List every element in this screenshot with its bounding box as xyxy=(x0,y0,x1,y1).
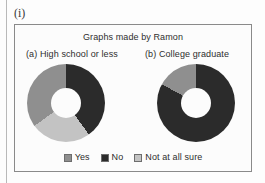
donut-chart-high-school xyxy=(27,64,105,142)
donut-chart-college-graduate xyxy=(157,64,235,142)
item-number-label: (i) xyxy=(14,6,25,20)
legend-swatch-icon-no xyxy=(101,154,109,162)
panel-a-caption: (a) High school or less xyxy=(26,49,118,59)
donut-hole-a xyxy=(51,88,81,118)
legend-label-yes: Yes xyxy=(75,153,90,162)
chart-legend: Yes No Not at all sure xyxy=(15,153,251,162)
legend-swatch-icon-unsure xyxy=(134,154,142,162)
legend-item-unsure: Not at all sure xyxy=(134,153,202,162)
page-left-rule xyxy=(6,0,7,183)
panel-b-caption: (b) College graduate xyxy=(145,49,229,59)
worksheet-page: (i) Graphs made by Ramon (a) High school… xyxy=(0,0,265,183)
legend-label-no: No xyxy=(112,153,124,162)
figure-container: Graphs made by Ramon (a) High school or … xyxy=(14,24,252,172)
legend-item-yes: Yes xyxy=(64,153,90,162)
legend-label-unsure: Not at all sure xyxy=(145,153,202,162)
legend-item-no: No xyxy=(101,153,124,162)
chart-title: Graphs made by Ramon xyxy=(15,32,251,42)
legend-swatch-icon-yes xyxy=(64,154,72,162)
donut-hole-b xyxy=(181,88,211,118)
